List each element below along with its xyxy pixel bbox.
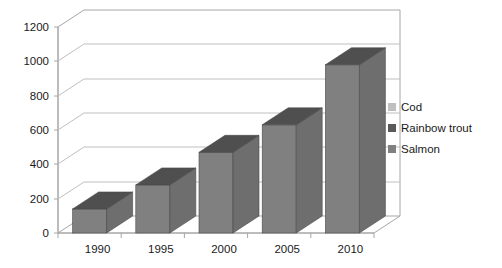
chart-legend: CodRainbow troutSalmon bbox=[388, 101, 473, 155]
y-tick-label-200: 200 bbox=[30, 193, 49, 205]
x-axis-tick-labels: 19901995200020052010 bbox=[85, 243, 363, 255]
bars-layer bbox=[73, 48, 386, 233]
bar-chart-3d: 0 200 400 600 800 1000 1200 199019952000… bbox=[0, 0, 502, 268]
x-tick-label-2000: 2000 bbox=[211, 243, 237, 255]
x-tick-label-1990: 1990 bbox=[85, 243, 111, 255]
legend-swatch-rainbow-trout bbox=[388, 124, 396, 132]
legend-swatch-cod bbox=[388, 103, 396, 111]
y-tick-label-0: 0 bbox=[43, 227, 49, 239]
bar-front bbox=[199, 152, 233, 233]
y-axis-ticks bbox=[54, 27, 58, 233]
y-tick-label-800: 800 bbox=[30, 90, 49, 102]
bar-front bbox=[136, 185, 170, 233]
x-tick-label-1995: 1995 bbox=[148, 243, 174, 255]
legend-swatch-salmon bbox=[388, 145, 396, 153]
legend-label-cod: Cod bbox=[401, 101, 422, 113]
bar-front bbox=[262, 125, 296, 233]
y-tick-label-1000: 1000 bbox=[23, 55, 49, 67]
legend-label-rainbow-trout: Rainbow trout bbox=[401, 122, 473, 134]
x-tick-label-2010: 2010 bbox=[338, 243, 364, 255]
y-tick-label-1200: 1200 bbox=[23, 21, 49, 33]
y-tick-label-600: 600 bbox=[30, 124, 49, 136]
bar-front bbox=[325, 65, 359, 233]
x-tick-label-2005: 2005 bbox=[274, 243, 300, 255]
bar-side bbox=[296, 108, 322, 233]
y-tick-label-400: 400 bbox=[30, 158, 49, 170]
bar-side bbox=[359, 48, 385, 233]
bar-front bbox=[73, 209, 107, 233]
chart-container: 0 200 400 600 800 1000 1200 199019952000… bbox=[0, 0, 502, 268]
legend-label-salmon: Salmon bbox=[401, 143, 440, 155]
y-axis-tick-labels: 0 200 400 600 800 1000 1200 bbox=[23, 21, 49, 239]
x-axis-ticks bbox=[58, 233, 374, 238]
